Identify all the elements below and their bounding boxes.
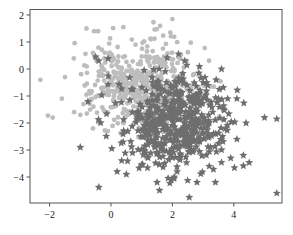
circle-marker <box>207 58 212 63</box>
circle-marker <box>137 94 142 99</box>
star-marker <box>95 183 103 191</box>
circle-marker <box>170 62 175 67</box>
y-tick-label: −1 <box>13 91 24 102</box>
circle-marker <box>71 56 76 61</box>
circle-marker <box>110 124 115 129</box>
circle-marker <box>82 83 87 88</box>
circle-marker <box>91 50 96 55</box>
star-marker <box>233 86 241 94</box>
circle-marker <box>146 59 151 64</box>
y-tick-label: 1 <box>19 37 24 48</box>
star-marker <box>242 119 250 127</box>
circle-marker <box>127 64 132 69</box>
circle-marker <box>115 121 120 126</box>
star-marker <box>218 65 226 73</box>
star-marker <box>217 158 225 166</box>
y-tick-label: 2 <box>19 10 24 21</box>
circle-marker <box>163 42 168 47</box>
circle-marker <box>130 59 135 64</box>
circle-marker <box>82 63 87 68</box>
star-marker <box>240 99 248 107</box>
star-marker <box>156 186 164 194</box>
circle-marker <box>126 69 131 74</box>
star-marker <box>121 149 129 157</box>
circle-marker <box>84 26 89 31</box>
y-tick-label: −2 <box>13 118 24 129</box>
circle-marker <box>119 65 124 70</box>
circle-marker <box>218 79 223 84</box>
circle-marker <box>79 72 84 77</box>
star-marker <box>193 178 201 186</box>
y-tick-label: 0 <box>19 64 24 75</box>
circle-marker <box>150 49 155 54</box>
star-marker <box>239 162 247 170</box>
circle-marker <box>87 91 92 96</box>
circle-marker <box>101 85 106 90</box>
circle-marker <box>171 66 176 71</box>
circle-marker <box>83 51 88 56</box>
circle-marker <box>185 50 190 55</box>
circle-marker <box>108 105 113 110</box>
star-marker <box>211 178 219 186</box>
circle-marker <box>145 44 150 49</box>
star-marker <box>261 113 269 121</box>
x-axis: −2024 <box>44 203 236 220</box>
circle-marker <box>144 75 149 80</box>
circle-marker <box>175 40 180 45</box>
circle-marker <box>111 26 116 31</box>
circle-marker <box>202 46 207 51</box>
star-marker <box>76 143 84 151</box>
star-marker <box>239 151 247 159</box>
circle-marker <box>121 55 126 60</box>
circle-marker <box>84 111 89 116</box>
circle-marker <box>93 83 98 88</box>
circle-marker <box>144 54 149 59</box>
y-axis: 210−1−2−3−4 <box>13 10 30 183</box>
circle-marker <box>147 70 152 75</box>
circle-marker <box>151 20 156 25</box>
star-marker <box>108 144 116 152</box>
circle-marker <box>124 60 129 65</box>
star-marker <box>153 178 161 186</box>
circle-marker <box>96 45 101 50</box>
circle-marker <box>95 78 100 83</box>
circle-marker <box>188 40 193 45</box>
star-marker <box>233 95 241 103</box>
x-tick-label: 0 <box>109 209 114 220</box>
circle-marker <box>161 33 166 38</box>
circle-marker <box>133 42 138 47</box>
circle-marker <box>85 70 90 75</box>
circle-marker <box>38 77 43 82</box>
circle-marker <box>116 59 121 64</box>
circle-marker <box>115 45 120 50</box>
circle-marker <box>116 54 121 59</box>
x-tick-label: 2 <box>170 209 175 220</box>
star-marker <box>227 154 235 162</box>
circle-marker <box>169 57 174 62</box>
star-marker <box>127 137 135 145</box>
circle-marker <box>102 78 107 83</box>
circle-marker <box>121 107 126 112</box>
circle-marker <box>116 115 121 120</box>
y-tick-label: −3 <box>13 145 24 156</box>
star-marker <box>224 95 232 103</box>
circle-marker <box>91 126 96 131</box>
star-marker <box>124 157 132 165</box>
circle-marker <box>99 72 104 77</box>
star-marker <box>273 189 281 197</box>
star-marker <box>233 135 241 143</box>
circle-marker <box>139 54 144 59</box>
star-marker <box>117 139 125 147</box>
circle-marker <box>145 49 150 54</box>
star-marker <box>144 164 152 172</box>
star-marker <box>113 167 121 175</box>
circle-marker <box>119 70 124 75</box>
circle-marker <box>45 113 50 118</box>
circle-marker <box>158 23 163 28</box>
x-tick-label: −2 <box>44 209 55 220</box>
star-marker <box>185 193 193 201</box>
circle-marker <box>163 61 168 66</box>
circle-marker <box>92 29 97 34</box>
star-marker <box>195 62 203 70</box>
circle-marker <box>81 102 86 107</box>
